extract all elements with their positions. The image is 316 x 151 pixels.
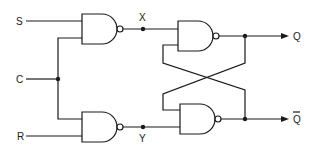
sr-latch-diagram: S C R X Y Q Q — [0, 0, 316, 151]
label-q: Q — [293, 31, 301, 42]
label-c: C — [16, 74, 23, 85]
label-r: R — [17, 131, 24, 142]
label-q-bar: Q — [293, 114, 301, 125]
nand-gate-4 — [180, 104, 221, 134]
arrow-q-icon — [281, 33, 289, 39]
junction-c — [56, 77, 60, 81]
nand-gate-1 — [82, 14, 123, 44]
label-x: X — [139, 12, 146, 23]
junction-y — [141, 125, 145, 129]
nand-gate-3 — [178, 21, 219, 51]
label-s: S — [16, 16, 23, 27]
arrow-q-bar-icon — [281, 116, 289, 122]
nand-gate-2 — [82, 112, 123, 142]
wire-c-branch — [58, 38, 82, 119]
label-y: Y — [139, 133, 146, 144]
junction-x — [141, 27, 145, 31]
